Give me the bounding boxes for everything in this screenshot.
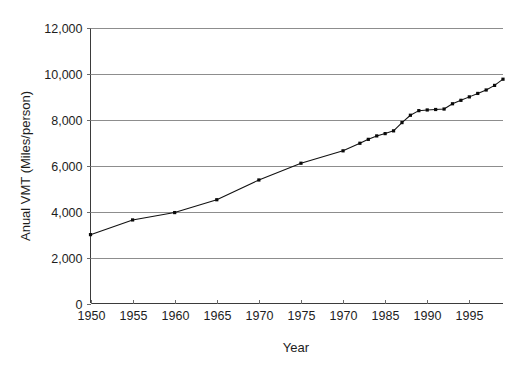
x-tick-label: 1975: [288, 309, 316, 323]
y-tick-label: 12,000: [44, 22, 82, 36]
y-tick-label: 0: [76, 298, 83, 312]
data-point-marker: [442, 107, 445, 110]
data-point-marker: [367, 138, 370, 141]
y-tick-label: 8,000: [51, 114, 82, 128]
data-point-marker: [173, 211, 176, 214]
x-tick-label: 1985: [372, 309, 400, 323]
y-axis-title: Anual VMT (Miles/person): [18, 91, 33, 241]
y-tick-label: 6,000: [51, 160, 82, 174]
data-point-marker: [476, 92, 479, 95]
x-tick-label: 1995: [456, 309, 484, 323]
data-point-marker: [426, 108, 429, 111]
x-tick-label: 1970: [246, 309, 274, 323]
data-point-marker: [358, 142, 361, 145]
data-point-marker: [89, 233, 92, 236]
x-tick-label: 1965: [204, 309, 232, 323]
data-point-marker: [451, 102, 454, 105]
data-point-marker: [459, 99, 462, 102]
data-point-marker: [131, 218, 134, 221]
data-point-marker: [468, 95, 471, 98]
data-point-marker: [493, 84, 496, 87]
y-tick-label: 4,000: [51, 206, 82, 220]
y-tick-label: 10,000: [44, 68, 82, 82]
data-point-marker: [501, 78, 504, 81]
line-chart: 1950195519601965197019751970198519901995…: [0, 0, 524, 369]
x-tick-label: 1960: [162, 309, 190, 323]
data-point-marker: [409, 114, 412, 117]
x-tick-label: 1970: [330, 309, 358, 323]
data-point-marker: [299, 162, 302, 165]
data-point-marker: [341, 149, 344, 152]
x-tick-label: 1955: [120, 309, 148, 323]
data-point-marker: [417, 109, 420, 112]
x-tick-label: 1990: [414, 309, 442, 323]
data-point-marker: [384, 132, 387, 135]
data-point-marker: [485, 88, 488, 91]
data-point-marker: [434, 108, 437, 111]
y-tick-label: 2,000: [51, 252, 82, 266]
data-point-marker: [375, 134, 378, 137]
data-point-marker: [257, 178, 260, 181]
chart-figure: 1950195519601965197019751970198519901995…: [0, 0, 524, 369]
data-point-marker: [392, 129, 395, 132]
data-point-marker: [215, 198, 218, 201]
data-point-marker: [400, 121, 403, 124]
x-axis-title: Year: [283, 340, 310, 355]
